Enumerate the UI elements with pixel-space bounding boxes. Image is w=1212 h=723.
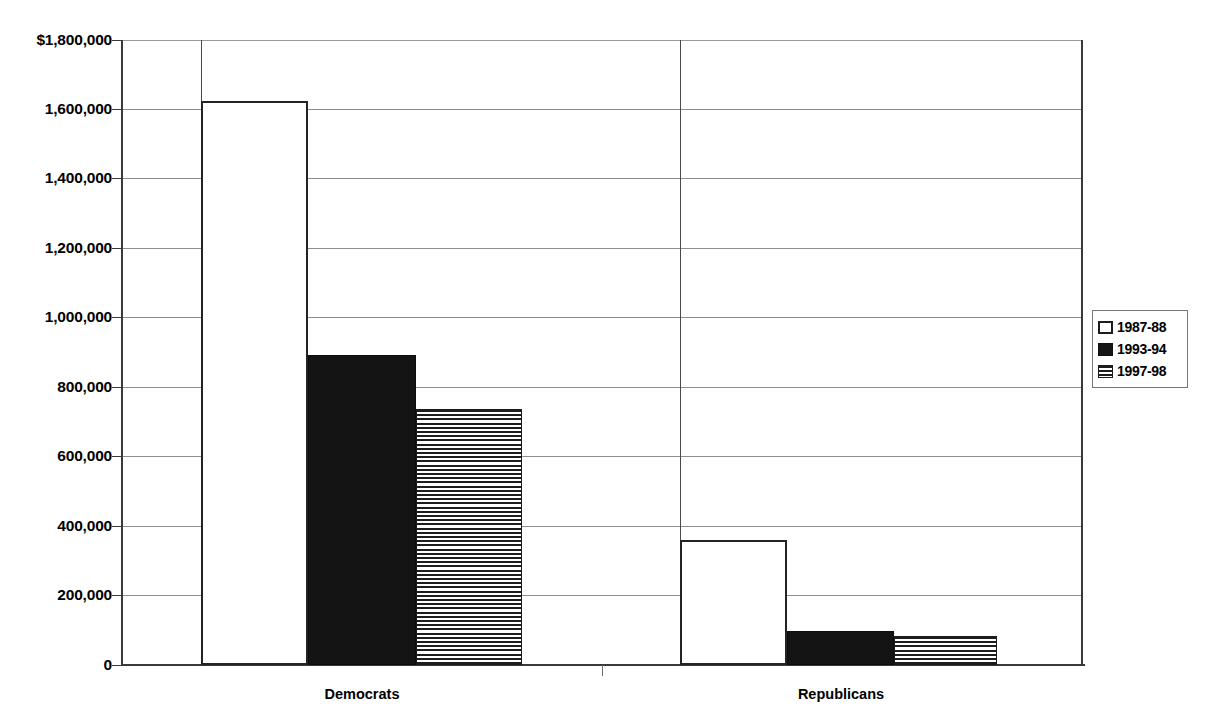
x-axis-label-republicans: Republicans bbox=[798, 686, 884, 702]
bar-chart: $1,800,000 1,600,000 1,400,000 1,200,000… bbox=[0, 0, 1212, 723]
legend-item-1987-88[interactable]: 1987-88 bbox=[1098, 316, 1183, 338]
x-axis-label-democrats: Democrats bbox=[325, 686, 400, 702]
legend-swatch-striped-icon bbox=[1098, 365, 1113, 378]
bar-republicans-1997-98[interactable] bbox=[894, 636, 997, 665]
bar-republicans-1987-88[interactable] bbox=[680, 540, 787, 665]
bar-republicans-1993-94[interactable] bbox=[787, 631, 894, 665]
bars-layer bbox=[0, 0, 1212, 665]
legend-item-1997-98[interactable]: 1997-98 bbox=[1098, 360, 1183, 382]
legend-label-1993-94: 1993-94 bbox=[1117, 341, 1166, 357]
y-tick-0 bbox=[112, 665, 122, 666]
legend-label-1997-98: 1997-98 bbox=[1117, 363, 1166, 379]
legend-item-1993-94[interactable]: 1993-94 bbox=[1098, 338, 1183, 360]
bar-democrats-1987-88[interactable] bbox=[201, 101, 308, 665]
bar-democrats-1993-94[interactable] bbox=[308, 355, 416, 665]
legend-label-1987-88: 1987-88 bbox=[1117, 319, 1166, 335]
legend: 1987-88 1993-94 1997-98 bbox=[1092, 310, 1188, 388]
legend-swatch-open-icon bbox=[1098, 321, 1113, 334]
legend-swatch-solid-icon bbox=[1098, 343, 1113, 356]
category-divider-tick bbox=[602, 665, 603, 676]
bar-democrats-1997-98[interactable] bbox=[416, 409, 522, 665]
